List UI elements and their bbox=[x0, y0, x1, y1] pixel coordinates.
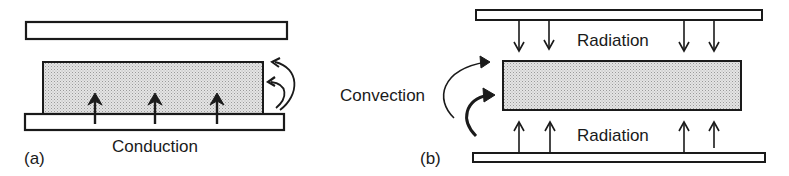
sample-block bbox=[43, 62, 263, 114]
panel-b-tag: (b) bbox=[420, 149, 441, 168]
radiation-bottom-label: Radiation bbox=[577, 126, 649, 145]
bottom-plate bbox=[473, 153, 765, 162]
up-arrow-icon bbox=[514, 122, 524, 153]
up-arrow-icon bbox=[545, 122, 555, 153]
up-arrow-icon bbox=[709, 122, 719, 148]
heat-transfer-diagram: (a) Conduction bbox=[0, 0, 789, 176]
up-arrow-icon bbox=[679, 122, 689, 153]
panel-a: (a) Conduction bbox=[24, 22, 294, 168]
convection-label: Convection bbox=[340, 86, 425, 105]
top-plate bbox=[476, 10, 762, 20]
panel-b: Radiation Radiation Convection (b) bbox=[340, 10, 765, 168]
curved-arrow-icon bbox=[467, 88, 495, 136]
curved-arrow-icon bbox=[272, 58, 294, 110]
down-arrow-icon bbox=[544, 20, 554, 49]
sample-block bbox=[503, 61, 741, 110]
conduction-label: Conduction bbox=[112, 137, 198, 156]
down-arrow-icon bbox=[679, 20, 689, 51]
radiation-top-label: Radiation bbox=[577, 31, 649, 50]
side-curved-arrows bbox=[268, 58, 294, 110]
curved-arrow-icon bbox=[268, 77, 284, 108]
down-arrow-icon bbox=[709, 20, 719, 51]
down-arrow-icon bbox=[514, 20, 524, 51]
convection-arrows bbox=[444, 56, 495, 136]
panel-a-tag: (a) bbox=[24, 149, 45, 168]
top-plate bbox=[26, 22, 287, 39]
